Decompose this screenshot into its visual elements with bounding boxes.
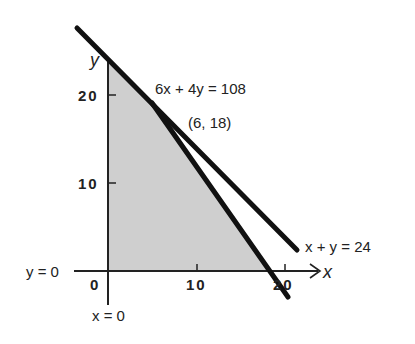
intersection-point-label: (6, 18) xyxy=(188,114,231,131)
y-eq-0-label: y = 0 xyxy=(26,263,59,280)
tick-label-0: 0 xyxy=(90,276,100,293)
x-eq-0-label: x = 0 xyxy=(92,307,125,324)
tick-label-x10: 10 xyxy=(186,276,207,293)
tick-label-y10: 10 xyxy=(78,175,99,192)
y-axis-label: y xyxy=(88,50,100,70)
tick-label-x20: 20 xyxy=(273,276,294,293)
chart: 20 10 0 10 20 y x 6x + 4y = 108 (6, 18) … xyxy=(0,0,415,344)
x-axis-label: x xyxy=(322,262,333,282)
tick-label-y20: 20 xyxy=(78,87,99,104)
line1-equation-label: 6x + 4y = 108 xyxy=(155,80,246,97)
line2-equation-label: x + y = 24 xyxy=(305,238,371,255)
